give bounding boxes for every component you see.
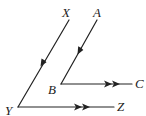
- geometry-diagram: X A B C Y Z: [0, 0, 146, 116]
- point-label-x: X: [62, 6, 70, 19]
- point-label-y: Y: [5, 104, 12, 116]
- point-label-c: C: [135, 77, 144, 90]
- parallel-arrow-icon: [78, 46, 84, 54]
- diagram-lines: [0, 0, 146, 116]
- point-label-b: B: [48, 83, 56, 96]
- point-label-a: A: [93, 6, 101, 19]
- point-label-z: Z: [117, 100, 124, 113]
